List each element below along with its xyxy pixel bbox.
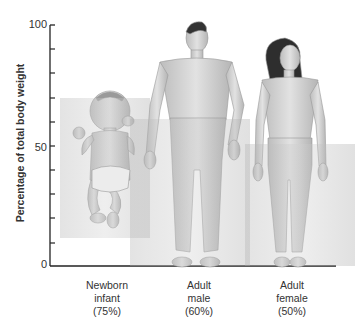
category-label-line: Adult	[257, 279, 327, 292]
y-axis-label: Percentage of total body weight	[14, 53, 26, 233]
category-value: (50%)	[257, 305, 327, 318]
y-tick-100: 100	[27, 18, 47, 30]
category-label-line: Newborn	[72, 279, 142, 292]
category-value: (75%)	[72, 305, 142, 318]
y-axis	[50, 25, 55, 266]
adult-female-figure	[245, 38, 355, 267]
y-tick-0: 0	[27, 258, 47, 270]
category-label-line: male	[164, 292, 234, 305]
y-tick-50: 50	[27, 141, 47, 153]
category-newborn-infant: Newborn infant (75%)	[72, 279, 142, 318]
category-label-line: infant	[72, 292, 142, 305]
category-adult-female: Adult female (50%)	[257, 279, 327, 318]
category-label-line: female	[257, 292, 327, 305]
adult-male-figure	[130, 22, 250, 267]
category-value: (60%)	[164, 305, 234, 318]
category-label-line: Adult	[164, 279, 234, 292]
category-adult-male: Adult male (60%)	[164, 279, 234, 318]
body-water-figure	[0, 0, 359, 326]
